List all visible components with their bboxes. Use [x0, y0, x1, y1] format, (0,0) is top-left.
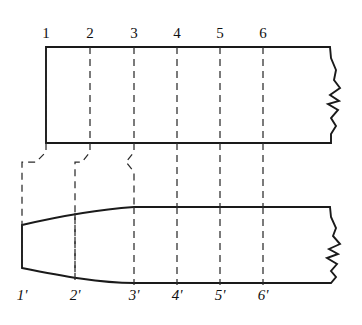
bottom-view-outline [22, 207, 340, 283]
bottom-view-group [22, 207, 340, 283]
two-view-engineering-diagram: 1 2 3 4 5 6 1' 2' 3' 4' 5' 6' [0, 0, 362, 325]
bottom-view-station-lines [75, 207, 263, 285]
station-label-1-prime: 1' [17, 287, 29, 303]
station-label-4: 4 [173, 25, 181, 41]
station-label-6-prime: 6' [258, 287, 270, 303]
station-label-5-prime: 5' [215, 287, 227, 303]
station-label-6: 6 [259, 25, 267, 41]
bottom-view-labels: 1' 2' 3' 4' 5' 6' [17, 287, 270, 303]
station-label-3: 3 [130, 25, 138, 41]
station-label-1: 1 [42, 25, 50, 41]
projection-line-3-to-3prime [126, 143, 134, 207]
projection-line-2-to-2prime [75, 143, 90, 279]
figure-root: 1 2 3 4 5 6 1' 2' 3' 4' 5' 6' [0, 0, 362, 325]
station-label-4-prime: 4' [172, 287, 184, 303]
station-label-2-prime: 2' [70, 287, 82, 303]
projection-line-1-to-1prime [22, 143, 46, 225]
station-label-3-prime: 3' [128, 287, 141, 303]
station-label-2: 2 [86, 25, 94, 41]
top-view-station-lines [90, 47, 263, 143]
projection-lines-group [22, 143, 263, 279]
top-view-labels: 1 2 3 4 5 6 [42, 25, 267, 41]
station-label-5: 5 [216, 25, 224, 41]
